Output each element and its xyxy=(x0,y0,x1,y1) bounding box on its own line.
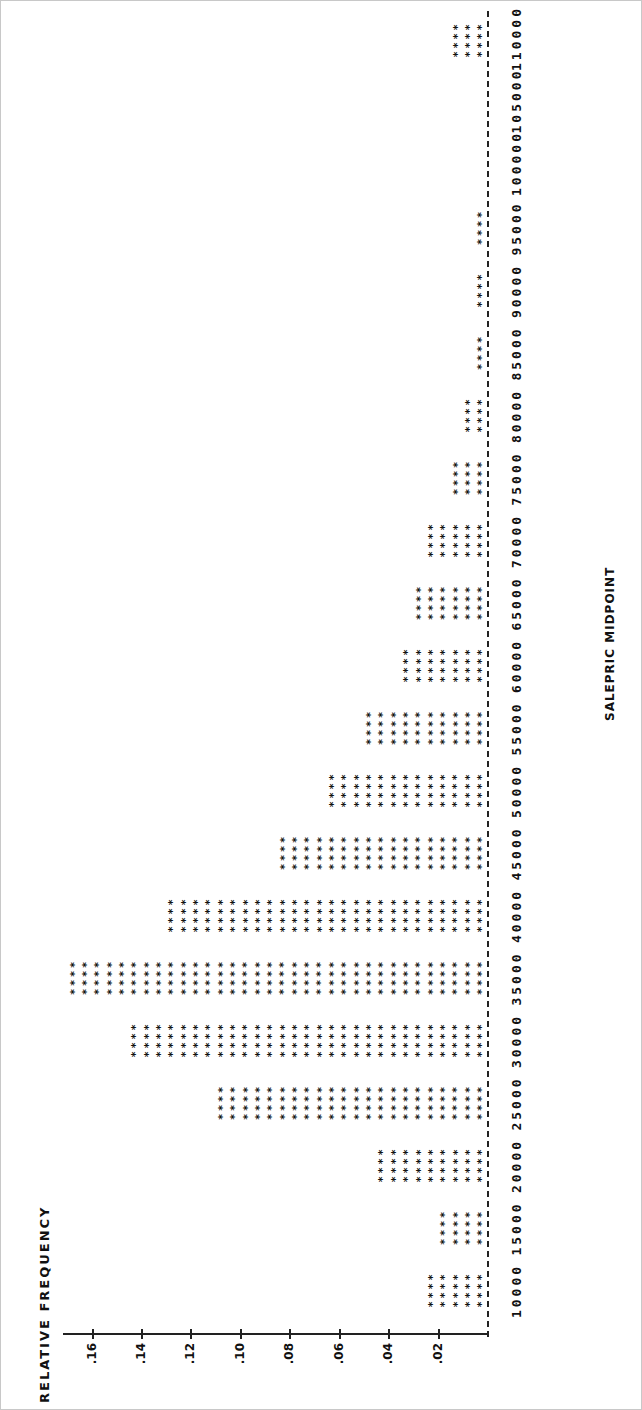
bar-star-glyph: * xyxy=(230,980,239,987)
bar-star-glyph: * xyxy=(428,542,437,549)
bar-star-glyph: * xyxy=(465,971,474,978)
bar-star-glyph: * xyxy=(465,1212,474,1219)
bar-star-glyph: * xyxy=(267,1105,276,1112)
bar-star-glyph: * xyxy=(70,989,79,996)
bar-star-glyph: * xyxy=(280,1087,289,1094)
bar-star-glyph: * xyxy=(440,1283,449,1290)
histogram-bar: **** xyxy=(476,273,488,309)
bar-star-glyph: * xyxy=(452,1096,461,1103)
bar-star-glyph: * xyxy=(428,587,437,594)
bar-star-glyph: * xyxy=(144,962,153,969)
bar-star-glyph: * xyxy=(354,926,363,933)
bar-star-glyph: * xyxy=(230,1024,239,1031)
bar-star-glyph: * xyxy=(131,962,140,969)
bar-star-glyph: * xyxy=(391,846,400,853)
bar-star-glyph: * xyxy=(341,989,350,996)
bar-star-glyph: * xyxy=(391,989,400,996)
bar-star-glyph: * xyxy=(415,1042,424,1049)
bar-star-glyph: * xyxy=(280,1105,289,1112)
y-tick-label: .06 xyxy=(332,1343,346,1383)
bar-star-glyph: * xyxy=(465,408,474,415)
bar-star-glyph: * xyxy=(465,1024,474,1031)
bar-star-glyph: * xyxy=(428,1051,437,1058)
bar-star-glyph: * xyxy=(440,1301,449,1308)
bar-star-glyph: * xyxy=(465,1158,474,1165)
bar-star-glyph: * xyxy=(144,1024,153,1031)
bar-star-glyph: * xyxy=(465,855,474,862)
bar-star-glyph: * xyxy=(465,471,474,478)
bar-star-glyph: * xyxy=(255,1033,264,1040)
bar-star-glyph: * xyxy=(119,971,128,978)
bar-star-glyph: * xyxy=(255,1114,264,1121)
bar-star-glyph: * xyxy=(403,1105,412,1112)
bar-star-glyph: * xyxy=(452,1105,461,1112)
midpoint-label: 45000 xyxy=(509,824,524,884)
bar-star-glyph: * xyxy=(354,846,363,853)
bar-star-glyph: * xyxy=(440,524,449,531)
bar-star-glyph: * xyxy=(415,801,424,808)
bar-star-glyph: * xyxy=(354,1042,363,1049)
bar-star-glyph: * xyxy=(440,980,449,987)
bar-star-glyph: * xyxy=(267,917,276,924)
bar-star-glyph: * xyxy=(415,774,424,781)
bar-star-glyph: * xyxy=(440,1024,449,1031)
bar-star-glyph: * xyxy=(415,730,424,737)
bar-star-glyph: * xyxy=(391,1176,400,1183)
bar-star-glyph: * xyxy=(452,908,461,915)
bar-star-glyph: * xyxy=(280,1051,289,1058)
bar-star-glyph: * xyxy=(279,962,288,969)
bar-star-glyph: * xyxy=(329,971,338,978)
bar-star-glyph: * xyxy=(267,926,276,933)
bar-star-glyph: * xyxy=(428,658,437,665)
histogram-bar: ****************************************… xyxy=(130,1023,488,1059)
bar-star-glyph: * xyxy=(428,551,437,558)
y-tick-mark xyxy=(285,1329,295,1339)
bar-star-glyph: * xyxy=(329,926,338,933)
bar-star-glyph: * xyxy=(440,1114,449,1121)
bar-star-glyph: * xyxy=(218,1096,227,1103)
bar-star-glyph: * xyxy=(477,1087,486,1094)
bar-star-glyph: * xyxy=(465,837,474,844)
bar-star-glyph: * xyxy=(341,1024,350,1031)
bar-star-glyph: * xyxy=(428,971,437,978)
bar-star-glyph: * xyxy=(428,1283,437,1290)
bar-star-glyph: * xyxy=(329,1087,338,1094)
bar-star-glyph: * xyxy=(465,587,474,594)
bar-star-glyph: * xyxy=(465,792,474,799)
bar-star-glyph: * xyxy=(354,837,363,844)
bar-star-glyph: * xyxy=(453,42,462,49)
bar-star-glyph: * xyxy=(366,1096,375,1103)
bar-star-glyph: * xyxy=(366,739,375,746)
bar-star-glyph: * xyxy=(280,837,289,844)
bar-star-glyph: * xyxy=(477,292,486,299)
bar-star-glyph: * xyxy=(378,926,387,933)
bar-star-glyph: * xyxy=(477,667,486,674)
bar-star-glyph: * xyxy=(453,587,462,594)
bar-star-glyph: * xyxy=(329,774,338,781)
bar-star-glyph: * xyxy=(218,980,227,987)
bar-star-glyph: * xyxy=(156,1024,165,1031)
bar-star-glyph: * xyxy=(292,864,301,871)
bar-star-glyph: * xyxy=(255,989,264,996)
bar-star-glyph: * xyxy=(168,899,177,906)
bar-star-glyph: * xyxy=(452,864,461,871)
bar-star-glyph: * xyxy=(440,1096,449,1103)
bar-star-glyph: * xyxy=(403,837,412,844)
bar-star-glyph: * xyxy=(440,864,449,871)
bar-star-glyph: * xyxy=(415,962,424,969)
bar-star-glyph: * xyxy=(107,962,116,969)
bar-star-glyph: * xyxy=(428,730,437,737)
bar-star-glyph: * xyxy=(452,989,461,996)
bar-star-glyph: * xyxy=(465,1087,474,1094)
bar-star-glyph: * xyxy=(465,551,474,558)
bar-star-glyph: * xyxy=(440,739,449,746)
bar-star-glyph: * xyxy=(193,962,202,969)
bar-star-glyph: * xyxy=(477,1149,486,1156)
bar-star-glyph: * xyxy=(255,1105,264,1112)
bar-star-glyph: * xyxy=(279,989,288,996)
bar-star-glyph: * xyxy=(267,1096,276,1103)
bar-star-glyph: * xyxy=(168,962,177,969)
bar-star-glyph: * xyxy=(465,980,474,987)
bar-star-glyph: * xyxy=(391,1167,400,1174)
bar-star-glyph: * xyxy=(366,989,375,996)
